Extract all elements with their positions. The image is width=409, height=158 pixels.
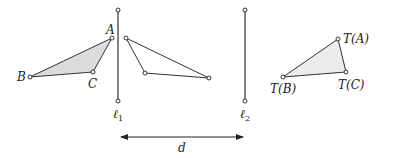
vertex-c-point xyxy=(91,70,95,74)
vertex-a1-point xyxy=(124,36,128,40)
label-d: d xyxy=(178,141,186,155)
line-l2-top-endpoint xyxy=(243,8,247,12)
line-l1-bottom-endpoint xyxy=(116,99,120,103)
label-l2: ℓ2 xyxy=(240,107,250,123)
label-c: C xyxy=(88,77,97,91)
label-tb: T(B) xyxy=(270,82,297,96)
vertex-c1-point xyxy=(143,71,147,75)
line-l1-top-endpoint xyxy=(116,8,120,12)
triangle-translated xyxy=(283,39,346,77)
label-b: B xyxy=(16,70,26,84)
diagram-svg: A B C ℓ1 ℓ2 T(A) T(B) T(C) d xyxy=(0,0,409,158)
vertex-b-point xyxy=(28,75,32,79)
triangle-reflected xyxy=(126,38,209,78)
label-a: A xyxy=(105,23,115,37)
vertex-tc-point xyxy=(344,70,348,74)
label-tc: T(C) xyxy=(338,78,365,92)
vertex-b1-point xyxy=(207,76,211,80)
vertex-tb-point xyxy=(281,75,285,79)
line-l2-bottom-endpoint xyxy=(243,99,247,103)
label-ta: T(A) xyxy=(343,32,369,46)
vertex-ta-point xyxy=(336,37,340,41)
triangle-abc xyxy=(30,38,112,77)
reflection-translation-diagram: A B C ℓ1 ℓ2 T(A) T(B) T(C) d xyxy=(0,0,409,158)
label-l1: ℓ1 xyxy=(113,107,123,123)
